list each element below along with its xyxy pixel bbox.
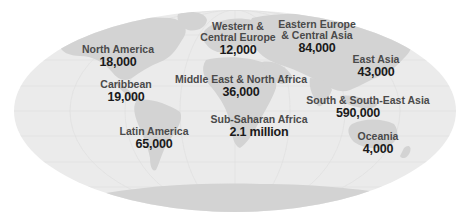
region-label-latin-america: Latin America 65,000 (119, 126, 188, 151)
world-map: North America 18,000 Caribbean 19,000 La… (0, 0, 458, 217)
region-value: 590,000 (286, 107, 429, 120)
region-value: 43,000 (353, 66, 400, 79)
region-name-line2: Central Europe (200, 32, 275, 43)
region-name: Caribbean (100, 79, 151, 90)
region-value: 12,000 (200, 44, 275, 57)
region-name: Oceania (358, 131, 399, 142)
region-label-western-central-europe: Western & Central Europe 12,000 (200, 21, 275, 57)
region-name: North America (82, 44, 154, 55)
region-label-sub-saharan-africa: Sub-Saharan Africa 2.1 million (210, 114, 307, 139)
region-name: Sub-Saharan Africa (210, 114, 307, 125)
region-name: Middle East & North Africa (175, 74, 307, 85)
region-label-east-asia: East Asia 43,000 (353, 54, 400, 79)
region-value: 65,000 (119, 138, 188, 151)
region-value: 19,000 (100, 91, 151, 104)
region-value: 36,000 (175, 86, 307, 99)
region-name: Latin America (119, 126, 188, 137)
region-label-caribbean: Caribbean 19,000 (100, 79, 151, 104)
region-value: 2.1 million (210, 126, 307, 139)
region-label-middle-east-north-africa: Middle East & North Africa 36,000 (175, 74, 307, 99)
region-name-line2: & Central Asia (278, 30, 356, 41)
region-value: 18,000 (82, 56, 154, 69)
region-name: East Asia (353, 54, 400, 65)
region-label-north-america: North America 18,000 (82, 44, 154, 69)
region-label-eastern-europe-central-asia: Eastern Europe & Central Asia 84,000 (278, 19, 356, 55)
region-label-oceania: Oceania 4,000 (358, 131, 399, 156)
region-value: 4,000 (358, 143, 399, 156)
region-label-south-southeast-asia: South & South-East Asia 590,000 (306, 95, 429, 120)
region-value: 84,000 (278, 42, 356, 55)
region-name: South & South-East Asia (306, 95, 429, 106)
